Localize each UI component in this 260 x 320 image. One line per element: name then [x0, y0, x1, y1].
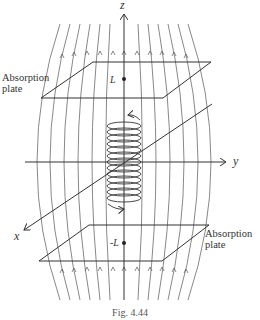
z-axis-label: z [120, 0, 125, 13]
top-plate-label-line2: plate [2, 83, 49, 94]
point-minus-L [122, 241, 126, 245]
figure-canvas: z y x L -L Absorption plate Absorption p… [0, 0, 260, 320]
bottom-plate-label-line1: Absorption [205, 228, 252, 239]
point-L-label: L [110, 74, 116, 85]
top-plate-label-line1: Absorption [2, 72, 49, 83]
y-axis-label: y [233, 154, 238, 169]
bottom-plate-label-line2: plate [205, 239, 252, 250]
point-L [122, 77, 126, 81]
bottom-plate-label: Absorption plate [205, 228, 252, 250]
figure-caption: Fig. 4.44 [0, 307, 260, 318]
point-minus-L-label: -L [110, 237, 119, 248]
diagram-svg [0, 0, 260, 320]
x-axis-label: x [14, 229, 19, 244]
top-plate-label: Absorption plate [2, 72, 49, 94]
top-absorption-plate [41, 62, 211, 98]
